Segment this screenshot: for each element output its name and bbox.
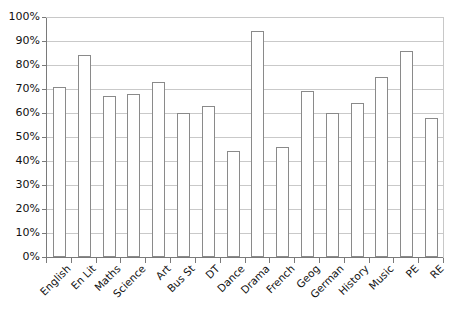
y-axis-tick-label: 10% [0,227,40,238]
y-axis: 0%10%20%30%40%50%60%70%80%90%100% [0,17,42,257]
bar [53,87,66,257]
bar [251,31,264,257]
bar [103,96,116,257]
gridline [47,65,444,66]
bar [276,147,289,257]
y-axis-tick-label: 100% [0,11,40,22]
y-axis-tick-label: 50% [0,131,40,142]
bar [375,77,388,257]
y-axis-tick-label: 0% [0,251,40,262]
bar-chart: 0%10%20%30%40%50%60%70%80%90%100% Englis… [0,0,457,309]
bar [78,55,91,257]
bar [127,94,140,257]
y-axis-tick-label: 20% [0,203,40,214]
bar [351,103,364,257]
bar [301,91,314,257]
plot-area [46,17,444,258]
bar [202,106,215,257]
y-axis-tick-label: 40% [0,155,40,166]
bar [400,51,413,257]
bar [152,82,165,257]
y-axis-tick-label: 30% [0,179,40,190]
y-axis-tick-label: 60% [0,107,40,118]
bar [177,113,190,257]
gridline [47,41,444,42]
y-axis-tick-label: 80% [0,59,40,70]
bar [227,151,240,257]
bar [425,118,438,257]
bar [326,113,339,257]
y-axis-tick-label: 90% [0,35,40,46]
gridline [47,17,444,18]
y-axis-tick-label: 70% [0,83,40,94]
x-axis-labels: EnglishEn LitMathsScienceArtBus StDTDanc… [46,263,457,309]
